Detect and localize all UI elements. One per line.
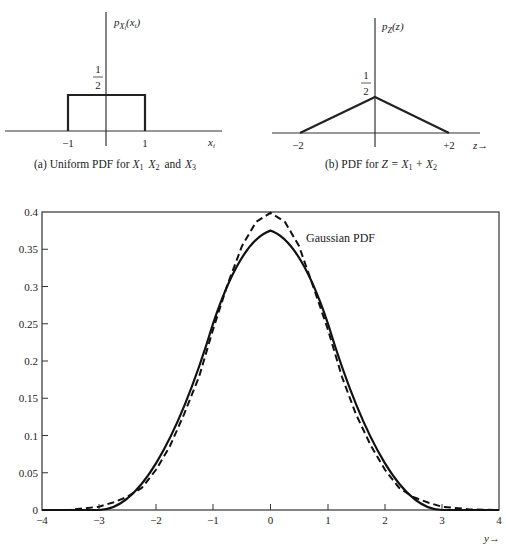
x-tick-label: 1	[325, 514, 331, 526]
figure: pXi(xi) 1 2 −1 1 xi (a) Uniform PDF for …	[0, 0, 506, 550]
y-ticks	[42, 249, 48, 473]
x-tick-label: −2	[150, 514, 162, 526]
x-tick-label: −1	[207, 514, 219, 526]
panel-b-tick-minus2: −2	[292, 139, 304, 151]
panel-b-ylabel: pZ(z)	[381, 20, 404, 35]
x-tick-label: 2	[382, 514, 388, 526]
panel-a-ylabel: pXi(xi)	[113, 16, 141, 31]
panel-b-triangular-pdf: pZ(z) 1 2 −2 +2 z→ (b) PDF for Z = X1 + …	[272, 18, 488, 172]
x-tick-label: 0	[268, 514, 274, 526]
panel-a-xlabel: xi	[207, 136, 215, 150]
sum-pdf-curve	[42, 231, 499, 510]
x-ticks	[99, 504, 442, 510]
main-plot: 0 0.05 0.1 0.15 0.2 0.25 0.3 0.35 0.4 −4…	[19, 206, 503, 544]
gaussian-legend-label: Gaussian PDF	[306, 231, 375, 245]
panel-a-tick-minus1: −1	[62, 137, 74, 149]
panel-a-uniform-pdf: pXi(xi) 1 2 −1 1 xi (a) Uniform PDF for …	[5, 12, 222, 172]
main-xlabel: y→	[483, 532, 500, 544]
y-tick-label: 0.1	[24, 430, 38, 442]
panel-a-half-numerator: 1	[95, 63, 101, 75]
y-tick-label: 0.3	[24, 281, 38, 293]
panel-b-xlabel: z→	[472, 139, 488, 151]
main-plot-frame	[42, 212, 499, 510]
x-tick-label: −3	[93, 514, 105, 526]
y-tick-labels: 0 0.05 0.1 0.15 0.2 0.25 0.3 0.35 0.4	[19, 206, 39, 516]
panel-a-caption: (a) Uniform PDF for X1X2andX3	[34, 158, 196, 172]
gaussian-pdf-curve	[42, 213, 499, 510]
x-tick-labels: −4 −3 −2 −1 0 1 2 3 4	[36, 514, 502, 526]
x-tick-label: 4	[496, 514, 502, 526]
x-tick-label: 3	[439, 514, 445, 526]
panel-a-tick-1: 1	[142, 137, 148, 149]
y-tick-label: 0.4	[24, 206, 38, 218]
y-tick-label: 0.15	[19, 392, 39, 404]
y-tick-label: 0.25	[19, 318, 39, 330]
y-tick-label: 0.2	[24, 355, 38, 367]
panel-b-tick-plus2: +2	[443, 139, 455, 151]
x-tick-label: −4	[36, 514, 48, 526]
panel-a-half-denominator: 2	[95, 79, 101, 91]
y-tick-label: 0.35	[19, 243, 39, 255]
panel-b-half-numerator: 1	[363, 69, 369, 81]
y-tick-label: 0.05	[19, 467, 39, 479]
panel-b-half-denominator: 2	[363, 85, 369, 97]
panel-b-caption: (b) PDF for Z = X1 + X2	[325, 158, 437, 172]
